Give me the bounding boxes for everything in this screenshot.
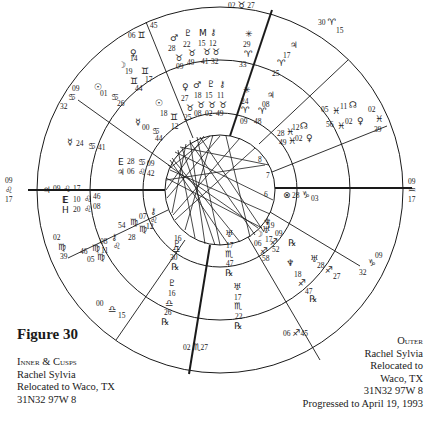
caption-outer-line: 31N32 97W 8: [303, 385, 423, 398]
svg-text:♂: ♂: [170, 33, 178, 43]
svg-text:54: 54: [118, 221, 126, 230]
cusp-5-label: 00: [96, 299, 104, 308]
svg-text:32: 32: [60, 102, 68, 111]
planet-pluto-inner-libra: ♇16♎30℞: [170, 234, 182, 272]
svg-text:12: 12: [146, 222, 154, 231]
svg-text:♌: ♌: [84, 204, 92, 214]
svg-text:☊: ☊: [349, 100, 357, 110]
caption-outer-heading: Outer: [303, 335, 423, 348]
svg-text:℞: ℞: [225, 268, 233, 278]
svg-text:✳: ✳: [243, 85, 251, 95]
svg-text:♆: ♆: [286, 258, 294, 268]
svg-text:32: 32: [211, 57, 219, 66]
caption-outer: Outer Rachel Sylvia Relocated to Waco, T…: [303, 335, 423, 410]
svg-text:♋: ♋: [68, 92, 76, 102]
svg-text:♇: ♇: [168, 278, 176, 288]
svg-text:25: 25: [272, 69, 280, 78]
caption-outer-line: Waco, TX: [303, 373, 423, 386]
svg-text:♉: ♉: [212, 47, 220, 57]
svg-text:℞: ℞: [309, 294, 317, 304]
cusp-6-label: 02: [53, 233, 61, 242]
svg-text:♑: ♑: [368, 258, 376, 268]
svg-text:♋: ♋: [88, 141, 96, 151]
svg-text:22: 22: [235, 312, 243, 321]
cusp-7-label: 09: [5, 176, 13, 185]
svg-text:32: 32: [359, 268, 367, 277]
svg-text:♌: ♌: [113, 241, 121, 251]
planet-jupiter-outer: ♃17♈25: [272, 40, 298, 78]
svg-text:E: E: [118, 157, 124, 167]
core-marker-6: 6: [264, 190, 268, 199]
svg-text:28: 28: [317, 261, 325, 270]
svg-text:M: M: [199, 28, 207, 38]
svg-text:20: 20: [73, 205, 81, 214]
planet-pluto-inner: ♇15♉02: [205, 79, 216, 118]
svg-text:♈: ♈: [258, 106, 267, 116]
caption-inner-line: Relocated to Waco, TX: [17, 381, 115, 394]
svg-text:30: 30: [170, 253, 178, 262]
svg-text:28: 28: [292, 191, 300, 200]
svg-text:♅: ♅: [225, 229, 233, 239]
svg-text:27: 27: [333, 272, 341, 281]
planet-uranus-inner-sag: ♐0952℞: [270, 229, 296, 254]
svg-text:H: H: [62, 205, 69, 215]
planet-chiron-virgo-outer: 46♍08⚷♌1105♍: [80, 232, 121, 264]
figure-title: Figure 30: [17, 326, 78, 343]
svg-text:03: 03: [311, 194, 319, 203]
svg-text:♌: ♌: [63, 184, 71, 194]
svg-text:24: 24: [76, 139, 84, 148]
svg-text:♏: ♏: [225, 249, 233, 259]
svg-text:♓: ♓: [332, 106, 340, 116]
svg-text:01: 01: [100, 89, 108, 98]
svg-text:♃: ♃: [117, 167, 125, 177]
svg-text:E: E: [62, 195, 68, 205]
svg-text:05: 05: [321, 105, 329, 114]
cusp-2-label: 09: [375, 251, 383, 260]
svg-text:15: 15: [336, 26, 344, 35]
svg-text:41: 41: [201, 57, 209, 66]
svg-text:♓: ♓: [375, 114, 383, 124]
svg-text:♇: ♇: [207, 79, 215, 89]
planet-star-outer: ✳29♈33: [239, 29, 253, 69]
svg-text:♋: ♋: [138, 157, 146, 167]
svg-text:♓: ♓: [337, 121, 345, 131]
svg-text:16: 16: [174, 234, 182, 243]
planet-star-inner: ✳24♈09: [240, 85, 251, 126]
svg-text:♌: ♌: [5, 185, 13, 195]
planet-chiron-inner: ⚷11♉49: [216, 79, 227, 118]
svg-text:08: 08: [194, 109, 202, 118]
svg-text:⚷: ⚷: [210, 27, 217, 37]
svg-text:18: 18: [194, 91, 202, 100]
svg-text:♇: ♇: [184, 28, 192, 38]
svg-text:09: 09: [240, 117, 248, 126]
svg-text:♀: ♀: [182, 82, 189, 92]
svg-text:47: 47: [226, 259, 234, 268]
svg-text:08: 08: [93, 202, 101, 211]
inner-planets: ♀27♉25 ♂18♉08 ♇15♉02 ⚷11♉49 ✳24♈09 ♃08♈4…: [117, 79, 313, 278]
svg-text:07: 07: [139, 212, 147, 221]
caption-inner-line: 31N32 97W 8: [17, 394, 115, 407]
cusp-4-label: 02 ♏27: [183, 342, 208, 352]
svg-text:♃: ♃: [290, 40, 298, 50]
svg-text:46: 46: [93, 192, 101, 201]
svg-text:12: 12: [292, 123, 300, 132]
planet-mars-outer: ♂28♉09: [168, 33, 184, 71]
svg-text:15: 15: [118, 311, 126, 320]
svg-text:19: 19: [267, 221, 275, 230]
svg-text:☊: ☊: [300, 121, 308, 131]
svg-text:27: 27: [181, 94, 189, 103]
svg-text:⊗: ⊗: [283, 190, 291, 200]
svg-text:17: 17: [5, 195, 13, 204]
svg-text:15: 15: [205, 91, 213, 100]
svg-text:26: 26: [164, 308, 172, 317]
caption-inner: Inner & Cusps Rachel Sylvia Relocated to…: [17, 356, 115, 406]
svg-text:℞: ℞: [288, 238, 296, 248]
svg-text:♎: ♎: [165, 298, 173, 308]
svg-text:28: 28: [277, 129, 285, 138]
svg-text:17: 17: [145, 75, 153, 84]
svg-text:28: 28: [128, 233, 136, 242]
cusp-11-label: 30 ♈: [318, 17, 336, 27]
planet-fortune-outer: ⊗28♑03: [283, 190, 319, 203]
svg-text:♏: ♏: [234, 301, 242, 311]
svg-text:♃: ♃: [43, 185, 51, 195]
